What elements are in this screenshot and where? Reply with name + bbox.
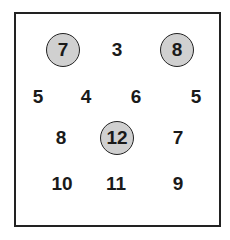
number-label: 9 — [173, 173, 184, 194]
number-label: 11 — [106, 173, 126, 194]
number: 3 — [97, 33, 137, 67]
number: 11 — [96, 167, 136, 201]
number: 5 — [176, 80, 216, 114]
number: 7 — [158, 121, 198, 155]
number-label: 3 — [112, 39, 123, 60]
circled-number: 7 — [43, 33, 83, 67]
number-label: 8 — [56, 127, 67, 148]
number-label: 8 — [172, 39, 183, 60]
number: 5 — [18, 80, 58, 114]
number: 10 — [42, 167, 82, 201]
number-label: 5 — [33, 86, 44, 107]
number: 4 — [66, 80, 106, 114]
number-label: 12 — [106, 127, 127, 148]
number-label: 10 — [51, 173, 72, 194]
number-label: 6 — [131, 86, 142, 107]
number-label: 7 — [58, 39, 69, 60]
number-label: 5 — [191, 86, 202, 107]
number: 8 — [41, 121, 81, 155]
number: 9 — [158, 167, 198, 201]
number: 6 — [116, 80, 156, 114]
circled-number: 8 — [157, 33, 197, 67]
number-label: 4 — [81, 86, 92, 107]
circled-number: 12 — [97, 121, 137, 155]
number-label: 7 — [173, 127, 184, 148]
